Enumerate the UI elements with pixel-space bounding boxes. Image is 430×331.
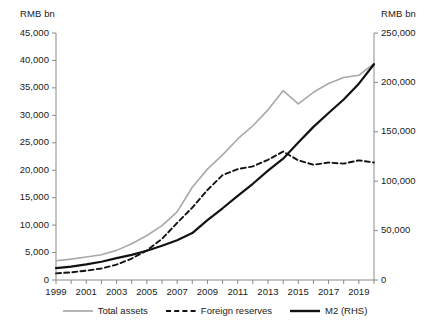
left-tick-label: 35,000 <box>0 81 49 92</box>
right-tick-label: 200,000 <box>381 76 416 87</box>
legend-label: Foreign reserves <box>201 305 272 316</box>
legend-label: Total assets <box>98 305 148 316</box>
left-tick-label: 0 <box>0 274 49 285</box>
series-line-m2-rhs <box>56 64 374 268</box>
right-tick-label: 250,000 <box>381 27 416 38</box>
chart-container: RMB bn RMB bn 05,00010,00015,00020,00025… <box>0 0 430 331</box>
left-tick-label: 25,000 <box>0 136 49 147</box>
chart-legend: Total assetsForeign reservesM2 (RHS) <box>0 305 430 316</box>
legend-swatch-icon <box>166 306 196 316</box>
right-tick-label: 150,000 <box>381 125 416 136</box>
left-tick-label: 15,000 <box>0 191 49 202</box>
legend-item[interactable]: Total assets <box>63 305 148 316</box>
left-tick-label: 40,000 <box>0 54 49 65</box>
legend-item[interactable]: Foreign reserves <box>166 305 272 316</box>
legend-label: M2 (RHS) <box>325 305 367 316</box>
left-tick-label: 10,000 <box>0 219 49 230</box>
x-tick-label: 2019 <box>339 286 379 297</box>
series-line-foreign-reserves <box>56 152 374 274</box>
right-tick-label: 0 <box>381 274 386 285</box>
right-tick-label: 50,000 <box>381 224 410 235</box>
legend-swatch-icon <box>63 306 93 316</box>
plot-area <box>0 0 430 331</box>
left-tick-label: 30,000 <box>0 109 49 120</box>
legend-swatch-icon <box>290 306 320 316</box>
right-tick-label: 100,000 <box>381 175 416 186</box>
left-tick-label: 20,000 <box>0 164 49 175</box>
left-tick-label: 5,000 <box>0 246 49 257</box>
left-tick-label: 45,000 <box>0 27 49 38</box>
legend-item[interactable]: M2 (RHS) <box>290 305 367 316</box>
